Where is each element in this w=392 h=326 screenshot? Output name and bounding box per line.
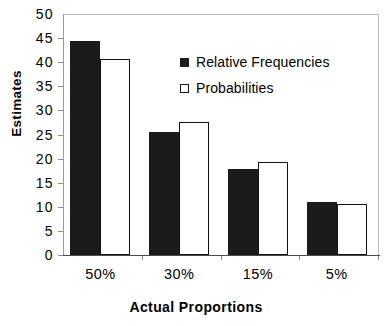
bar-probabilities[interactable]	[337, 204, 367, 255]
y-axis-tick-label: 40	[20, 55, 54, 69]
x-axis-tick-mark	[299, 256, 300, 260]
x-axis-tick-mark	[378, 256, 379, 260]
x-axis-tick-label: 15%	[223, 266, 293, 282]
y-axis-tick-label: 35	[20, 79, 54, 93]
y-axis-tick-label: 0	[20, 248, 54, 262]
bar-relative-frequencies[interactable]	[307, 202, 337, 255]
open-square-icon	[180, 84, 189, 93]
bar-probabilities[interactable]	[100, 59, 130, 255]
legend-item[interactable]: Relative Frequencies	[180, 51, 370, 73]
y-axis-tick-label: 50	[20, 7, 54, 21]
legend-item-label: Probabilities	[196, 80, 274, 96]
x-axis-tick-label: 30%	[144, 266, 214, 282]
x-axis-tick-marks	[63, 256, 380, 261]
y-axis-tick-label: 45	[20, 31, 54, 45]
bar-group	[70, 14, 130, 255]
bar-relative-frequencies[interactable]	[228, 169, 258, 255]
x-axis-tick-label: 50%	[65, 266, 135, 282]
bar-chart-figure: Estimates 50454035302520151050 50%30%15%…	[0, 0, 392, 326]
x-axis-title: Actual Proportions	[0, 299, 392, 315]
x-axis-tick-mark	[221, 256, 222, 260]
y-axis-tick-label: 20	[20, 152, 54, 166]
y-axis-tick-label: 10	[20, 200, 54, 214]
y-axis-tick-labels: 50454035302520151050	[20, 0, 54, 326]
x-axis-tick-label: 5%	[302, 266, 372, 282]
chart-legend: Relative FrequenciesProbabilities	[180, 51, 370, 103]
y-axis-tick-label: 30	[20, 103, 54, 117]
x-axis-tick-mark	[142, 256, 143, 260]
bar-relative-frequencies[interactable]	[149, 132, 179, 255]
bar-probabilities[interactable]	[258, 162, 288, 256]
legend-item-label: Relative Frequencies	[196, 54, 330, 70]
legend-item[interactable]: Probabilities	[180, 77, 370, 99]
bar-probabilities[interactable]	[179, 122, 209, 256]
bar-relative-frequencies[interactable]	[70, 41, 100, 255]
filled-square-icon	[180, 58, 189, 67]
y-axis-tick-label: 15	[20, 176, 54, 190]
y-axis-tick-label: 25	[20, 128, 54, 142]
y-axis-tick-label: 5	[20, 224, 54, 238]
